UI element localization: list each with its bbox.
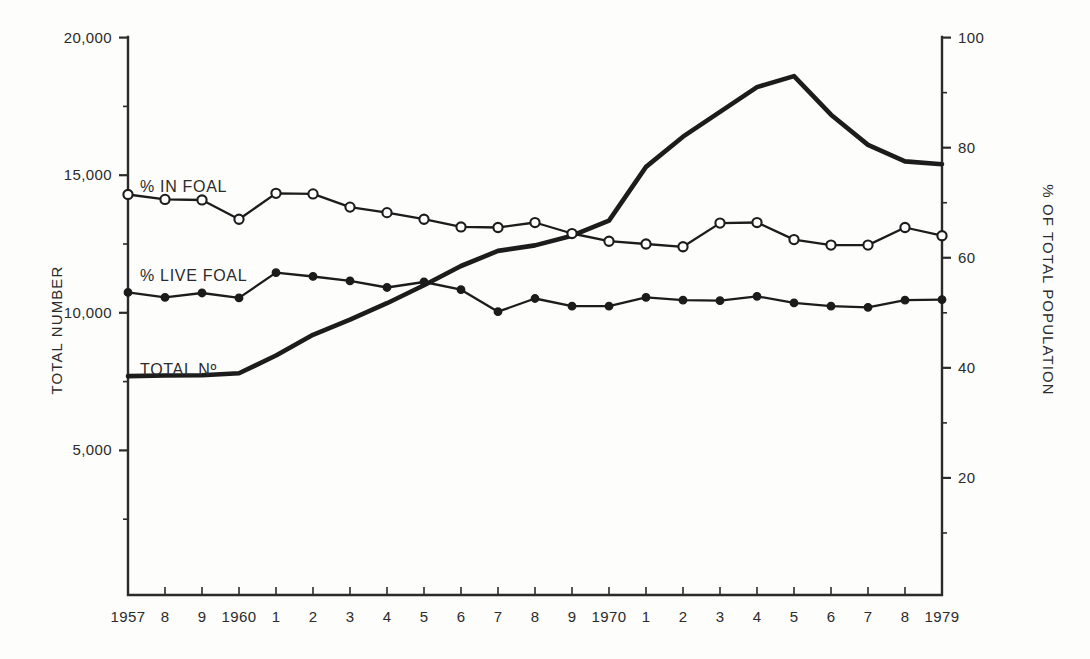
data-point-marker [308,189,317,198]
data-point-marker [679,296,686,303]
right-tick-label: 60 [958,249,976,266]
x-tick-label: 6 [457,608,466,625]
right-tick-label: 40 [958,359,976,376]
x-tick-label: 8 [161,608,170,625]
data-point-marker [641,239,650,248]
series-label-live-foal: % LIVE FOAL [140,267,247,284]
data-point-marker [938,296,945,303]
data-point-marker [197,195,206,204]
data-point-marker [752,218,761,227]
chart-figure: 20,00015,00010,0005,000 10080604020 1957… [0,0,1090,659]
data-point-marker [715,218,724,227]
data-point-marker [604,237,613,246]
data-point-marker [271,189,280,198]
left-tick-label: 20,000 [64,29,112,46]
x-tick-label: 7 [494,608,503,625]
series-label-in-foal: % IN FOAL [140,178,227,195]
x-tick-label: 3 [346,608,355,625]
data-point-marker [789,235,798,244]
x-tick-label: 9 [198,608,207,625]
x-tick-label: 5 [790,608,799,625]
data-point-marker [419,215,428,224]
data-point-marker [753,293,760,300]
right-tick-label: 20 [958,469,976,486]
x-tick-label: 1979 [925,608,960,625]
x-tick-label: 1 [642,608,651,625]
line-chart-canvas: 20,00015,00010,0005,000 10080604020 1957… [0,0,1090,659]
x-tick-label: 7 [864,608,873,625]
data-point-marker [124,289,131,296]
data-point-marker [457,286,464,293]
data-point-marker [567,229,576,238]
data-point-marker [345,203,354,212]
data-point-marker [530,218,539,227]
data-point-marker [456,222,465,231]
y2-axis-title: % OF TOTAL POPULATION [1040,184,1057,395]
data-point-marker [901,296,908,303]
left-tick-label: 5,000 [72,441,112,458]
x-tick-label: 1970 [592,608,627,625]
data-point-marker [642,294,649,301]
right-tick-label: 100 [958,29,984,46]
data-point-marker [346,277,353,284]
x-tick-label: 9 [568,608,577,625]
x-tick-label: 5 [420,608,429,625]
data-point-marker [234,215,243,224]
data-point-marker [531,295,538,302]
x-tick-label: 1960 [222,608,257,625]
data-point-marker [900,223,909,232]
data-point-marker [494,308,501,315]
series-label-total-no: TOTAL Nº [140,361,217,378]
data-point-marker [568,302,575,309]
left-tick-label: 10,000 [64,304,112,321]
data-point-marker [827,302,834,309]
data-point-marker [383,284,390,291]
left-tick-label: 15,000 [64,166,112,183]
x-tick-label: 1957 [111,608,146,625]
data-point-marker [493,223,502,232]
data-point-marker [309,273,316,280]
data-point-marker [864,304,871,311]
data-point-marker [235,294,242,301]
data-point-marker [123,190,132,199]
data-point-marker [382,208,391,217]
x-tick-label: 2 [309,608,318,625]
x-tick-label: 6 [827,608,836,625]
x-tick-label: 2 [679,608,688,625]
data-point-marker [420,278,427,285]
x-tick-label: 4 [753,608,762,625]
right-tick-label: 80 [958,139,976,156]
data-point-marker [198,289,205,296]
chart-background [0,0,1090,659]
y-axis-title: TOTAL NUMBER [48,266,65,395]
data-point-marker [272,269,279,276]
data-point-marker [826,241,835,250]
x-tick-label: 3 [716,608,725,625]
x-tick-label: 1 [272,608,281,625]
x-tick-label: 4 [383,608,392,625]
data-point-marker [160,195,169,204]
data-point-marker [605,302,612,309]
data-point-marker [863,241,872,250]
data-point-marker [790,299,797,306]
x-tick-label: 8 [531,608,540,625]
data-point-marker [937,231,946,240]
data-point-marker [678,242,687,251]
data-point-marker [161,294,168,301]
data-point-marker [716,297,723,304]
x-tick-label: 8 [901,608,910,625]
